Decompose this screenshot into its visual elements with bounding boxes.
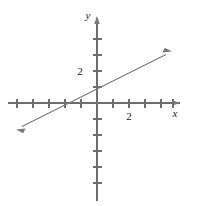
coordinate-plane-svg: x y 2 2 [0, 0, 200, 206]
y-axis-label: y [85, 9, 91, 21]
line-arrow-end-icon [162, 48, 172, 53]
x-tick-label-2: 2 [126, 110, 132, 122]
y-tick-label-2: 2 [77, 65, 83, 77]
line-arrow-start-icon [16, 128, 26, 133]
x-axis-label: x [172, 107, 178, 119]
graph-figure: x y 2 2 [0, 0, 200, 206]
y-axis-arrow-icon [94, 16, 100, 24]
plotted-line [22, 55, 166, 127]
